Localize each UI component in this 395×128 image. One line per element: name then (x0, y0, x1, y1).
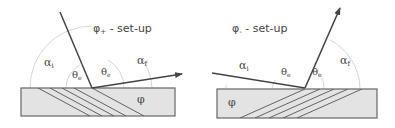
alpha-i-label: αi (239, 59, 249, 73)
phi-plus-setup: φ+ - set-up αi θe θe αf φ (21, 12, 182, 116)
theta-e-left-label: θe (281, 66, 291, 78)
phi-minus-setup: φ- - set-up αi θe θe αf φ (212, 8, 377, 118)
alpha-i-label: αi (44, 56, 54, 70)
phi-label: φ (228, 96, 236, 109)
phi-label: φ (137, 93, 145, 106)
exit-beam-arrow (305, 8, 340, 88)
diagram-canvas: φ+ - set-up αi θe θe αf φ φ- - set-up (0, 0, 395, 128)
setup-title: φ- - set-up (232, 22, 288, 36)
theta-e-left-label: θe (72, 69, 82, 81)
setup-title: φ+ - set-up (93, 22, 152, 36)
substrate (21, 88, 175, 116)
alpha-f-label: αf (137, 54, 148, 68)
theta-e-right-label: θe (312, 66, 322, 78)
alpha-f-label: αf (340, 54, 351, 68)
theta-e-right-label: θe (101, 66, 111, 78)
